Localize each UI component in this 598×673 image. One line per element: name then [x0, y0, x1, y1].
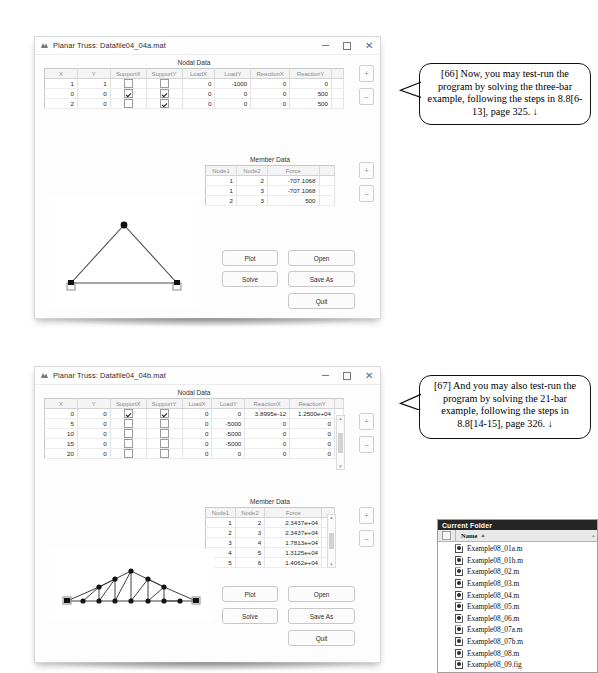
list-item[interactable]: Example08_04.m	[438, 589, 597, 601]
cell-supporty[interactable]	[146, 79, 182, 89]
cell-supportx[interactable]	[110, 99, 146, 109]
cell-supportx[interactable]	[110, 409, 146, 419]
checkbox[interactable]	[124, 89, 133, 98]
remove-row-button[interactable]: –	[359, 88, 374, 105]
truss-plot-1[interactable]	[49, 197, 199, 307]
cell-x[interactable]: 0	[45, 409, 78, 419]
scroll-thumb[interactable]	[338, 433, 343, 453]
checkbox[interactable]	[124, 429, 133, 438]
cell-node1[interactable]: 1	[206, 176, 237, 186]
cell-supportx[interactable]	[110, 89, 146, 99]
scroll-up-icon[interactable]: ▲	[591, 533, 596, 538]
table-row[interactable]: 20000500	[45, 99, 344, 109]
cell-node1[interactable]: 1	[206, 186, 237, 196]
cell-loadx[interactable]: 0	[182, 409, 212, 419]
cell-loady[interactable]: -1000	[215, 79, 251, 89]
cell-node1[interactable]: 2	[206, 196, 237, 206]
scroll-thumb[interactable]	[329, 533, 334, 549]
checkbox[interactable]	[124, 99, 133, 108]
cell-x[interactable]: 2	[45, 99, 78, 109]
cell-loady[interactable]: 0	[212, 449, 245, 459]
quit-button-2[interactable]: Quit	[288, 630, 355, 646]
checkbox[interactable]	[160, 449, 169, 458]
open-button-2[interactable]: Open	[288, 586, 355, 602]
cell-supporty[interactable]	[146, 429, 182, 439]
list-item[interactable]: Example08_01a.m	[438, 543, 597, 555]
list-item[interactable]: Example08_07a.m	[438, 624, 597, 636]
cell-loadx[interactable]: 0	[182, 79, 215, 89]
list-item[interactable]: Example08_09.fig	[438, 659, 597, 671]
cell-node1[interactable]: 3	[206, 538, 236, 548]
add-row-button[interactable]: +	[359, 65, 374, 82]
table-row[interactable]: 23500	[206, 196, 335, 206]
cell-loadx[interactable]: 0	[182, 449, 212, 459]
table-row[interactable]: 341.7813e+04	[206, 538, 335, 548]
table-row[interactable]: 2000000	[45, 449, 344, 459]
checkbox[interactable]	[160, 409, 169, 418]
plot-button-2[interactable]: Plot	[222, 586, 278, 602]
cell-y[interactable]: 0	[77, 89, 110, 99]
name-column-header[interactable]: Name ▲	[456, 532, 485, 539]
checkbox[interactable]	[160, 79, 169, 88]
table-row[interactable]: 12-707.1068	[206, 176, 335, 186]
cell-x[interactable]: 0	[45, 89, 78, 99]
member-data-table-2[interactable]: Node1 Node2 Force 122.3437e+04232.3437e+…	[205, 507, 335, 568]
checkbox[interactable]	[124, 79, 133, 88]
cell-supporty[interactable]	[146, 419, 182, 429]
current-folder-column-header[interactable]: Name ▲	[438, 530, 597, 542]
cell-node2[interactable]: 2	[235, 518, 265, 528]
nodal-table-scrollbar-2[interactable]: ▲ ▼	[336, 415, 345, 470]
checkbox[interactable]	[160, 89, 169, 98]
checkbox[interactable]	[160, 419, 169, 428]
cell-x[interactable]: 20	[45, 449, 78, 459]
select-all-checkbox[interactable]	[438, 530, 456, 541]
nodal-row-stepper-2[interactable]: + –	[359, 413, 374, 453]
cell-supportx[interactable]	[110, 429, 146, 439]
add-member-button[interactable]: +	[359, 162, 374, 179]
cell-node2[interactable]: 6	[235, 558, 265, 568]
scroll-down-icon[interactable]: ▼	[338, 464, 342, 469]
cell-x[interactable]: 1	[45, 79, 78, 89]
cell-supportx[interactable]	[110, 79, 146, 89]
cell-node1[interactable]: 1	[206, 518, 236, 528]
current-folder-scrollbar[interactable]: ▲	[591, 533, 596, 671]
window-2-title-bar[interactable]: Planar Truss: Datafile04_04b.mat ✕	[35, 367, 380, 385]
minimize-button[interactable]	[314, 368, 336, 384]
cell-node2[interactable]: 4	[235, 538, 265, 548]
nodal-data-table-2[interactable]: X Y SupportX SupportY LoadX LoadY Reacti…	[44, 398, 344, 459]
cell-y[interactable]: 0	[77, 439, 110, 449]
current-folder-file-list[interactable]: Example08_01a.mExample08_01b.mExample08_…	[438, 542, 597, 671]
cell-loady[interactable]: -5000	[212, 419, 245, 429]
table-row[interactable]: 110-100000	[45, 79, 344, 89]
save-as-button-1[interactable]: Save As	[288, 271, 355, 287]
table-row[interactable]: 232.3437e+04	[206, 528, 335, 538]
table-row[interactable]: 561.4062e+04	[206, 558, 335, 568]
remove-row-button[interactable]: –	[359, 436, 374, 453]
maximize-button[interactable]	[336, 38, 358, 54]
checkbox[interactable]	[160, 429, 169, 438]
cell-supporty[interactable]	[146, 439, 182, 449]
cell-y[interactable]: 0	[77, 409, 110, 419]
member-row-stepper-1[interactable]: + –	[359, 162, 374, 202]
close-icon[interactable]: ✕	[358, 38, 380, 54]
scroll-up-icon[interactable]: ▲	[329, 515, 333, 520]
remove-member-button[interactable]: –	[359, 530, 374, 547]
quit-button-1[interactable]: Quit	[288, 293, 355, 309]
checkbox[interactable]	[124, 419, 133, 428]
cell-loadx[interactable]: 0	[182, 439, 212, 449]
cell-loadx[interactable]: 0	[182, 99, 215, 109]
planar-truss-window-1[interactable]: Planar Truss: Datafile04_04a.mat ✕ Nodal…	[34, 36, 381, 319]
checkbox[interactable]	[124, 449, 133, 458]
cell-loadx[interactable]: 0	[182, 429, 212, 439]
save-as-button-2[interactable]: Save As	[288, 608, 355, 624]
cell-y[interactable]: 0	[77, 429, 110, 439]
table-row[interactable]: 500-500000	[45, 419, 344, 429]
cell-loady[interactable]: -5000	[212, 429, 245, 439]
plot-button-1[interactable]: Plot	[222, 250, 278, 266]
cell-loady[interactable]: 0	[215, 99, 251, 109]
current-folder-panel[interactable]: Current Folder Name ▲ Example08_01a.mExa…	[437, 519, 598, 673]
solve-button-2[interactable]: Solve	[222, 608, 278, 624]
cell-y[interactable]: 0	[77, 419, 110, 429]
cell-x[interactable]: 5	[45, 419, 78, 429]
cell-loady[interactable]: -5000	[212, 439, 245, 449]
